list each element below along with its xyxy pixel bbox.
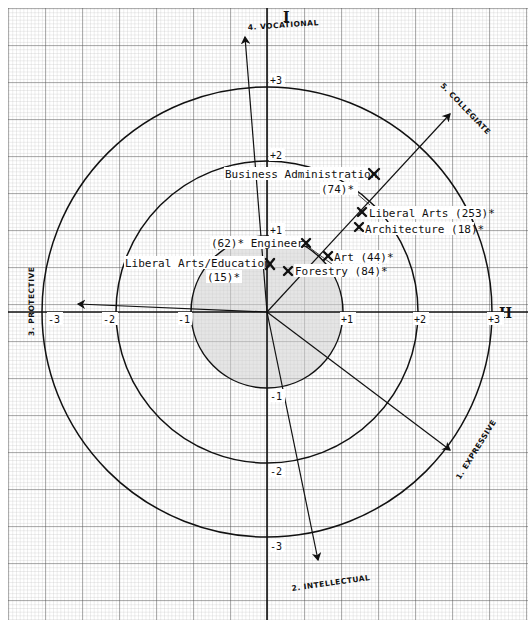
axis-name-protective: 3. PROTECTIVE: [27, 267, 36, 336]
tick-x-minus-3: -3: [48, 314, 60, 325]
quadrant-label-I: I: [283, 9, 290, 25]
tick-y-minus-3: -3: [270, 541, 282, 552]
tick-y-minus-1: -1: [270, 391, 282, 402]
label-engineers: (62)* Engineers: [211, 237, 310, 250]
label-liberal-arts: Liberal Arts (253)*: [369, 207, 495, 220]
tick-y-plus-2: +2: [270, 150, 282, 161]
label-business-administration-n: (74)*: [321, 183, 354, 196]
tick-y-plus-1: +1: [270, 225, 282, 236]
label-liberal-arts-education-n: (15)*: [207, 271, 240, 284]
label-forestry: Forestry (84)*: [295, 265, 388, 278]
label-architecture: Architecture (18)*: [365, 223, 484, 236]
tick-x-plus-1: +1: [341, 314, 353, 325]
tick-x-plus-3: +3: [488, 314, 500, 325]
chart-container: 4. VOCATIONAL 5. COLLEGIATE 1. EXPRESSIV…: [0, 0, 528, 620]
tick-x-minus-2: -2: [103, 314, 115, 325]
label-liberal-arts-education: Liberal Arts/Education: [125, 257, 271, 270]
tick-y-plus-3: +3: [270, 75, 282, 86]
tick-x-plus-2: +2: [414, 314, 426, 325]
label-business-administration: Business Administration: [225, 168, 377, 181]
tick-y-minus-2: -2: [270, 466, 282, 477]
polar-chart: 4. VOCATIONAL 5. COLLEGIATE 1. EXPRESSIV…: [0, 0, 528, 620]
tick-x-minus-1: -1: [178, 314, 190, 325]
label-art: Art (44)*: [334, 251, 394, 264]
